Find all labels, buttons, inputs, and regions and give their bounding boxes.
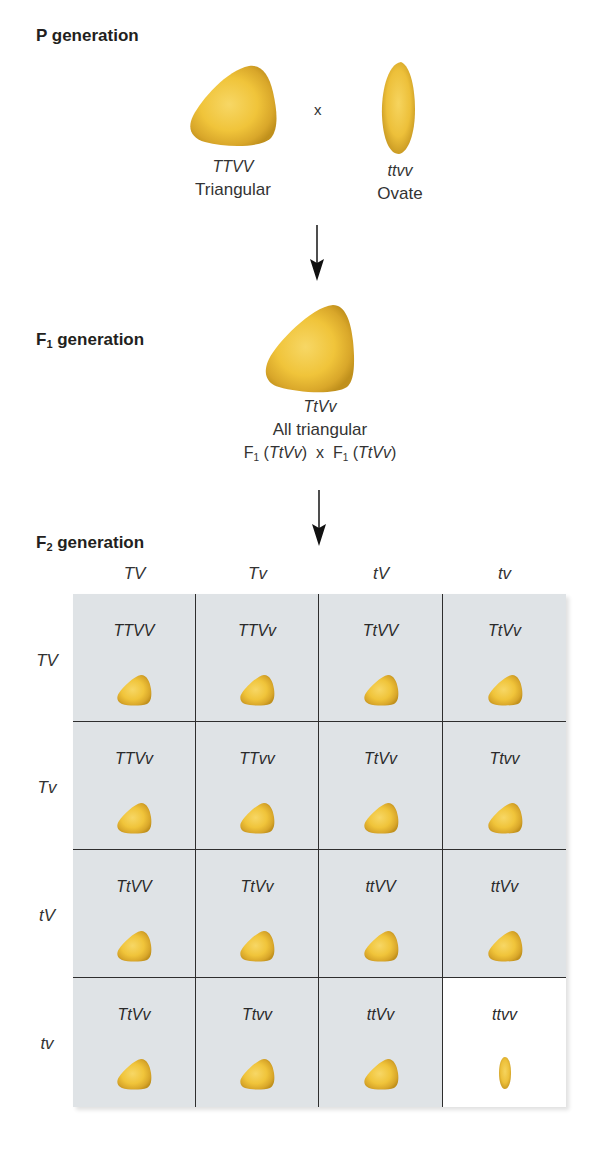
triangular-seed-icon [239,1058,275,1094]
column-gamete-TV: TV [73,564,196,584]
punnett-cell: TtVv [73,978,196,1107]
punnett-cell: ttVV [319,850,443,978]
cross-right-prefix: F [333,444,343,461]
cell-genotype: TtVv [319,750,442,768]
cell-genotype: ttVv [443,878,566,896]
triangular-seed-icon [116,674,152,710]
punnett-cell: TTVV [73,594,196,722]
cross-symbol: x [314,101,322,118]
triangular-seed-icon [363,930,399,966]
punnett-cell: ttVv [443,850,566,978]
punnett-cell: TTVv [73,722,196,850]
cross-right-genotype: TtVv [358,444,391,461]
punnett-cell: TTVv [196,594,319,722]
punnett-cell: TtVv [196,850,319,978]
punnett-cell: ttVv [319,978,443,1107]
column-gamete-tV: tV [319,564,443,584]
row-gamete-tv: tv [30,1034,64,1054]
cell-genotype: TTVv [73,750,195,768]
column-gamete-tv: tv [443,564,566,584]
punnett-cell: TtVV [73,850,196,978]
triangular-seed-icon [363,802,399,838]
cell-genotype: TTVV [73,622,195,640]
p-generation-label: P generation [36,26,139,46]
f1-label-prefix: F [36,330,46,349]
cross-left-genotype: TtVv [269,444,302,461]
f1-genotype: TtVv [270,398,370,416]
triangular-seed-icon [363,1058,399,1094]
cell-genotype: TTVv [196,622,318,640]
parent1-genotype: TTVV [183,158,283,176]
cell-genotype: TtVv [443,622,566,640]
parent1-phenotype: Triangular [178,180,288,200]
punnett-cell: TTvv [196,722,319,850]
cell-genotype: TtVv [73,1006,195,1024]
triangular-seed-icon [116,930,152,966]
triangular-seed-icon [487,802,523,838]
triangular-seed-icon [116,802,152,838]
punnett-cell: TtVv [319,722,443,850]
cell-genotype: ttvv [443,1006,566,1024]
ovate-seed-icon [498,1056,512,1094]
cross-left-prefix: F [244,444,254,461]
cell-genotype: TtVV [73,878,195,896]
cross-left-subscript: 1 [254,452,260,463]
f1-label-suffix: generation [53,330,145,349]
row-gamete-Tv: Tv [30,778,64,798]
f1-triangular-seed-icon [263,303,358,399]
f1-phenotype: All triangular [250,420,390,440]
f1-self-cross: F1 (TtVv) x F1 (TtVv) [210,444,430,463]
triangular-seed-icon [487,930,523,966]
f2-label-prefix: F [36,533,46,552]
triangular-seed-icon [363,674,399,710]
cell-genotype: TtVV [319,622,442,640]
cell-genotype: TtVv [196,878,318,896]
cell-genotype: TTvv [196,750,318,768]
down-arrow-icon [311,490,327,546]
punnett-cell: Ttvv [196,978,319,1107]
down-arrow-icon [309,225,325,281]
f2-label-suffix: generation [53,533,145,552]
triangular-seed-icon [239,930,275,966]
f1-generation-label: F1 generation [36,330,144,350]
parent2-genotype: ttvv [360,162,440,180]
triangular-seed-icon [116,1058,152,1094]
cell-genotype: Ttvv [196,1006,318,1024]
cross-symbol-f1: x [316,444,324,461]
punnett-cell: TtVv [443,594,566,722]
punnett-cell: Ttvv [443,722,566,850]
row-gamete-TV: TV [30,651,64,671]
punnett-cell: ttvv [443,978,566,1107]
column-gamete-Tv: Tv [196,564,319,584]
cell-genotype: Ttvv [443,750,566,768]
triangular-seed-icon [239,802,275,838]
punnett-square: TTVVTTVvTtVVTtVvTTVvTTvvTtVvTtvvTtVVTtVv… [73,594,566,1107]
punnett-cell: TtVV [319,594,443,722]
triangular-seed-icon [487,674,523,710]
f2-generation-label: F2 generation [36,533,144,553]
triangular-seed-icon [239,674,275,710]
row-gamete-tV: tV [30,906,64,926]
parent2-phenotype: Ovate [360,184,440,204]
cross-right-subscript: 1 [343,452,349,463]
triangular-seed-icon [187,62,279,154]
cell-genotype: ttVv [319,1006,442,1024]
cell-genotype: ttVV [319,878,442,896]
ovate-seed-icon [379,60,417,160]
